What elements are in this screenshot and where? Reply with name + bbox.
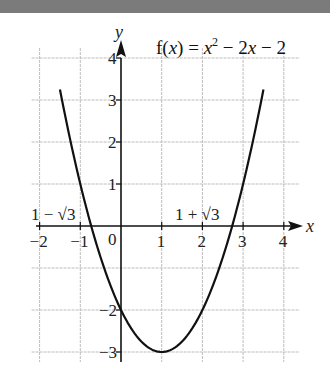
parabola-plot: −2−11234−3−21234 y x 0 1 − √3 1 + √3 f(x… <box>0 0 330 381</box>
origin-label: 0 <box>108 230 117 249</box>
x-tick-label: 4 <box>279 232 288 251</box>
x-axis-label: x <box>305 216 314 236</box>
y-axis-label: y <box>113 22 123 42</box>
axes <box>36 40 303 362</box>
x-tick-label: −2 <box>30 232 48 251</box>
y-tick-label: 2 <box>108 133 117 152</box>
y-axis-arrow-icon <box>116 40 126 57</box>
root-left-annotation: 1 − √3 <box>31 205 75 224</box>
x-tick-label: 1 <box>157 232 166 251</box>
x-tick-label: −1 <box>70 232 88 251</box>
root-right-annotation: 1 + √3 <box>175 205 219 224</box>
chart-title: f(x) = x2 − 2x − 2 <box>156 35 286 59</box>
y-tick-label: 3 <box>108 91 117 110</box>
y-tick-label: −3 <box>99 343 117 362</box>
x-tick-label: 2 <box>197 232 206 251</box>
y-tick-label: 4 <box>108 49 117 68</box>
x-tick-label: 3 <box>238 232 247 251</box>
y-tick-label: −2 <box>99 301 117 320</box>
y-tick-label: 1 <box>108 175 117 194</box>
